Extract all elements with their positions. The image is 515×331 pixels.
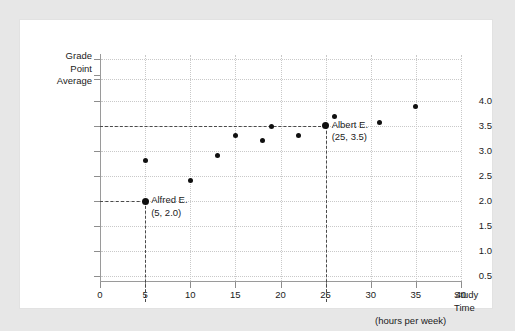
x-axis-tick xyxy=(100,282,101,288)
reference-line-vertical xyxy=(145,201,146,302)
data-point xyxy=(188,178,193,183)
data-point xyxy=(233,133,238,138)
annotation-coords: (25, 3.5) xyxy=(332,131,368,144)
data-point xyxy=(260,138,265,143)
data-point xyxy=(269,124,274,129)
y-axis-tick-label: 1.5 xyxy=(420,221,492,231)
y-axis-tick-label: 2.5 xyxy=(420,171,492,181)
reference-line-horizontal xyxy=(100,201,145,202)
reference-line-vertical xyxy=(326,126,327,302)
y-axis-tick-label: 3.0 xyxy=(420,146,492,156)
annotation-coords: (5, 2.0) xyxy=(151,207,187,220)
data-point xyxy=(215,153,220,158)
reference-line-horizontal xyxy=(100,126,326,127)
x-axis-tick-label: 20 xyxy=(261,289,301,300)
x-axis-tick-label: 0 xyxy=(80,289,120,300)
x-axis-tick-label: 10 xyxy=(170,289,210,300)
data-point-highlighted xyxy=(142,198,149,205)
y-axis-tick-label: 0.5 xyxy=(420,271,492,281)
gridline-vertical xyxy=(281,55,282,281)
y-axis-title-line-1: Grade xyxy=(20,50,92,63)
scatter-plot: Grade Point Average 0.51.01.52.02.53.03.… xyxy=(20,20,492,308)
annotation-name: Alfred E. xyxy=(151,194,187,207)
data-point xyxy=(377,120,382,125)
y-axis-tick-label: 1.0 xyxy=(420,246,492,256)
y-axis-tick-label: 2.0 xyxy=(420,196,492,206)
chart-panel: Grade Point Average 0.51.01.52.02.53.03.… xyxy=(20,20,492,308)
x-axis-tick-label: 30 xyxy=(351,289,391,300)
y-axis-title-line-2: Point xyxy=(20,63,92,76)
gridline-vertical xyxy=(416,55,417,281)
data-point xyxy=(296,133,301,138)
x-axis-tick xyxy=(235,282,236,288)
gridline-vertical xyxy=(371,55,372,281)
data-point xyxy=(413,104,418,109)
x-axis-tick xyxy=(281,282,282,288)
annotation: Alfred E.(5, 2.0) xyxy=(151,194,187,219)
gridline-vertical xyxy=(235,55,236,281)
x-axis-title-line-2: Time xyxy=(454,302,475,313)
y-axis-line xyxy=(100,54,101,282)
x-axis-title-line-1: Study xyxy=(454,289,478,300)
x-axis-title-line-3: (hours per week) xyxy=(375,315,446,326)
gridline-vertical xyxy=(190,55,191,281)
y-axis-title-line-3: Average xyxy=(20,75,92,88)
y-axis-title: Grade Point Average xyxy=(20,50,92,88)
y-axis-tick-label: 4.0 xyxy=(420,96,492,106)
annotation: Albert E.(25, 3.5) xyxy=(332,119,368,144)
x-axis-tick xyxy=(461,282,462,288)
data-point-highlighted xyxy=(322,122,329,129)
y-axis-tick-label: 3.5 xyxy=(420,121,492,131)
x-axis-line xyxy=(100,281,462,282)
x-axis-tick xyxy=(416,282,417,288)
data-point xyxy=(143,158,148,163)
x-axis-tick-label: 15 xyxy=(215,289,255,300)
annotation-name: Albert E. xyxy=(332,119,368,132)
x-axis-tick xyxy=(190,282,191,288)
x-axis-tick-label: 35 xyxy=(396,289,436,300)
x-axis-tick xyxy=(371,282,372,288)
